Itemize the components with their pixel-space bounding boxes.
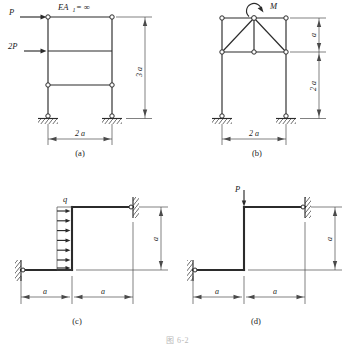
load-q-arrows bbox=[57, 209, 71, 270]
dim-a-left-label: a bbox=[215, 287, 219, 296]
dim-a-left-arrow-end bbox=[234, 295, 241, 299]
dim-a-v-arrow-top bbox=[333, 209, 337, 216]
panel-d-caption: (d) bbox=[236, 316, 276, 326]
moment-arrowhead bbox=[258, 6, 264, 12]
joint-top-right bbox=[284, 16, 288, 20]
dim-2a-label: 2 a bbox=[75, 129, 85, 138]
dim-2a-h-arrow-right bbox=[278, 137, 285, 141]
support-pin-right-circle bbox=[284, 114, 288, 118]
support-right-wall-hatch bbox=[133, 197, 139, 218]
joint-mid-right bbox=[284, 50, 288, 54]
figure-caption: 图 6-2 bbox=[0, 334, 355, 345]
joint-top-left bbox=[220, 16, 224, 20]
joint-lower-right bbox=[110, 83, 114, 87]
dim-a-v-label: a bbox=[151, 237, 160, 241]
dim-a-right-arrow-start bbox=[76, 295, 83, 299]
moment-label: M bbox=[269, 1, 278, 11]
dim-2a-arrow-left bbox=[50, 137, 57, 141]
moment-arc bbox=[247, 3, 262, 16]
support-pin-left-hatch bbox=[38, 119, 58, 124]
load-2P-arrowhead bbox=[41, 49, 47, 54]
load-P-label: P bbox=[234, 184, 240, 194]
dim-a-right-arrow-end bbox=[297, 295, 304, 299]
axial-rigidity-label: EA bbox=[57, 2, 69, 12]
support-pin-right-hatch bbox=[276, 119, 296, 124]
panel-b-caption: (b) bbox=[237, 148, 277, 158]
dim-a-left-arrow-start bbox=[195, 295, 202, 299]
dim-a-left-label: a bbox=[43, 287, 47, 296]
dim-a-v-label: a bbox=[325, 237, 334, 241]
support-left-pin bbox=[193, 268, 197, 272]
dim-a-right-label: a bbox=[273, 287, 277, 296]
load-P-arrowhead bbox=[41, 15, 47, 20]
dim-a-right-label: a bbox=[101, 287, 105, 296]
panel-b: M a 2 a 2 a bbox=[178, 0, 355, 150]
dim-a-right-arrow-start bbox=[248, 295, 255, 299]
joint-top-right bbox=[110, 15, 114, 19]
load-P-arrowhead bbox=[242, 201, 246, 207]
dim-3a-arrow-top bbox=[143, 19, 147, 26]
support-left-pin bbox=[21, 268, 25, 272]
joint-bottom-center bbox=[252, 50, 256, 54]
support-left-wall-hatch bbox=[15, 260, 21, 281]
dim-3a-arrow-bottom bbox=[143, 110, 147, 117]
joint-mid-left bbox=[220, 50, 224, 54]
dim-2a-h-label: 2 a bbox=[249, 129, 259, 138]
dim-a-arrow-bottom bbox=[317, 43, 321, 50]
support-pin-left-hatch bbox=[212, 119, 232, 124]
support-right-wall-hatch bbox=[305, 197, 311, 218]
support-pin-right-circle bbox=[110, 114, 114, 118]
panel-c: q a a a bbox=[0, 182, 180, 322]
panel-a-caption: (a) bbox=[60, 148, 100, 158]
dim-a-v-arrow-bottom bbox=[159, 261, 163, 268]
joint-apex bbox=[252, 16, 257, 21]
dim-3a-label: 3 a bbox=[135, 67, 144, 78]
engineering-figure: EA 1 = ∞ P 2P 3 a 2 a (a) bbox=[0, 0, 355, 345]
dim-2a-arrow-right bbox=[104, 137, 111, 141]
dim-2a-h-arrow-left bbox=[224, 137, 231, 141]
truss-diagonal-right bbox=[254, 18, 286, 52]
truss-diagonal-left bbox=[222, 18, 254, 52]
dim-a-v-arrow-bottom bbox=[333, 261, 337, 268]
load-P-label: P bbox=[8, 7, 14, 17]
load-2P-label: 2P bbox=[8, 41, 17, 51]
axial-rigidity-value: = ∞ bbox=[76, 2, 90, 12]
load-q-label: q bbox=[63, 194, 68, 204]
dim-a-v-arrow-top bbox=[159, 209, 163, 216]
dim-2a-v-label: 2 a bbox=[309, 81, 318, 91]
panel-d: P a a a bbox=[178, 182, 355, 322]
support-pin-left-circle bbox=[46, 114, 50, 118]
dim-a-right-arrow-end bbox=[125, 295, 132, 299]
panel-a: EA 1 = ∞ P 2P 3 a 2 a bbox=[0, 0, 180, 150]
support-left-wall-hatch bbox=[187, 260, 193, 281]
dim-2a-v-arrow-bottom bbox=[317, 110, 321, 117]
support-right-pin bbox=[129, 205, 133, 209]
joint-lower-left bbox=[46, 83, 50, 87]
dim-a-label: a bbox=[309, 33, 318, 37]
panel-c-caption: (c) bbox=[57, 316, 97, 326]
dim-2a-v-arrow-top bbox=[317, 54, 321, 61]
dim-a-left-arrow-end bbox=[62, 295, 69, 299]
support-pin-left-circle bbox=[220, 114, 224, 118]
dim-a-left-arrow-start bbox=[23, 295, 30, 299]
support-right-pin bbox=[301, 205, 305, 209]
dim-a-arrow-top bbox=[317, 20, 321, 27]
support-pin-right-hatch bbox=[102, 119, 122, 124]
